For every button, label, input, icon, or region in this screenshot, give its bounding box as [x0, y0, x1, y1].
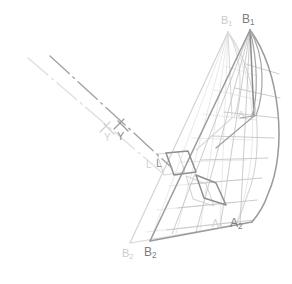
solid-strut [216, 116, 254, 148]
vertex-label-b1-solid: B1 [242, 13, 255, 27]
vertex-label-b2-ghost: B2 [122, 248, 134, 261]
axis-line-dark [50, 56, 172, 168]
vertex-label-l-solid: L [156, 158, 162, 169]
axis-group [28, 56, 172, 176]
vertex-label-subscript: 2 [219, 223, 223, 230]
vertex-label-base: B [242, 12, 250, 26]
vertex-label-y-solid: Y [117, 131, 124, 142]
vertex-label-subscript: 1 [244, 113, 247, 120]
vertex-label-a2-solid: A2 [230, 217, 243, 231]
solid-surface-group [150, 30, 280, 241]
vertex-label-b1-ghost: B1 [221, 15, 233, 28]
vertex-label-a1-faint: A1 [238, 110, 247, 120]
vertex-label-a2-ghost: A2 [212, 219, 222, 231]
ghost-outline [130, 32, 257, 243]
vertex-label-base: B [144, 245, 152, 259]
ghost-surface-group [130, 32, 258, 243]
vertex-label-subscript: 2 [238, 222, 243, 231]
diagram-canvas: B1B1A1YYLLA2A2B2B2 [0, 0, 292, 284]
vertex-label-subscript: 2 [152, 251, 157, 260]
vertex-label-base: Y [104, 132, 111, 143]
vertex-label-base: A [230, 216, 238, 230]
vertex-label-base: L [146, 159, 152, 170]
solid-mesh-radial [172, 30, 250, 234]
vertex-label-b2-solid: B2 [144, 246, 157, 260]
vertex-label-base: L [156, 157, 162, 169]
vertex-label-subscript: 1 [228, 19, 232, 28]
vertex-label-y-ghost: Y [104, 133, 111, 143]
vertex-label-subscript: 1 [250, 18, 255, 27]
vertex-label-base: A [212, 218, 219, 229]
vertex-label-subscript: 2 [129, 252, 133, 261]
wireframe-figure [0, 0, 292, 284]
vertex-label-l-ghost: L [146, 160, 152, 170]
vertex-label-base: Y [117, 130, 124, 142]
